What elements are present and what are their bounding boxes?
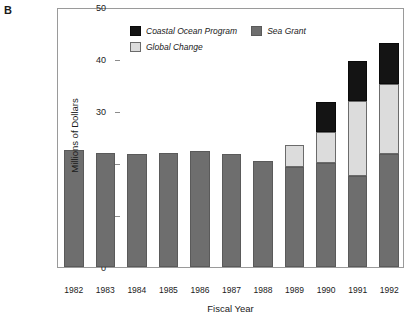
- x-tick-label-1983: 1983: [90, 285, 122, 295]
- bar-segment-sea-grant-1992: [379, 154, 399, 267]
- bar-segment-sea-grant-1983: [96, 153, 116, 267]
- x-tick-label-1992: 1992: [373, 285, 405, 295]
- x-tick-label-1984: 1984: [121, 285, 153, 295]
- legend-label-sea-grant: Sea Grant: [267, 26, 306, 36]
- bar-segment-global-change-1991: [348, 101, 368, 176]
- x-tick-label-1986: 1986: [184, 285, 216, 295]
- bar-1991: [348, 7, 368, 267]
- bar-segment-sea-grant-1989: [285, 167, 305, 267]
- x-tick-label-1989: 1989: [279, 285, 311, 295]
- x-tick-label-1987: 1987: [216, 285, 248, 295]
- bar-1983: [96, 7, 116, 267]
- x-tick-label-1982: 1982: [58, 285, 90, 295]
- bar-segment-coastal-1990: [316, 102, 336, 132]
- bar-segment-coastal-1991: [348, 61, 368, 101]
- legend-label-coastal-ocean-program: Coastal Ocean Program: [146, 26, 237, 36]
- y-tick-mark: [115, 216, 120, 217]
- legend-item-global-change: Global Change: [130, 42, 203, 52]
- y-tick-mark: [115, 164, 120, 165]
- bar-segment-global-change-1992: [379, 84, 399, 154]
- x-tick-label-1990: 1990: [310, 285, 342, 295]
- y-tick-mark: [115, 60, 120, 61]
- panel-letter: B: [4, 4, 12, 16]
- y-axis-title: Millions of Dollars: [69, 36, 80, 236]
- legend-swatch-icon-sea-grant: [251, 26, 262, 36]
- bar-segment-sea-grant-1985: [159, 153, 179, 267]
- legend-swatch-icon-global-change: [130, 42, 141, 52]
- bar-segment-global-change-1989: [285, 145, 305, 167]
- legend-row-1: Coastal Ocean Program Sea Grant: [130, 25, 320, 37]
- bar-segment-sea-grant-1988: [253, 161, 273, 267]
- bar-segment-sea-grant-1984: [127, 154, 147, 267]
- plot-area: 01020304050 1982198319841985198619871988…: [57, 8, 404, 268]
- bar-segment-sea-grant-1987: [222, 154, 242, 267]
- chart-legend: Coastal Ocean Program Sea Grant Global C…: [130, 25, 320, 57]
- legend-swatch-icon-coastal-ocean-program: [130, 26, 141, 36]
- bar-segment-coastal-1992: [379, 43, 399, 84]
- bar-1992: [379, 7, 399, 267]
- bar-segment-sea-grant-1986: [190, 151, 210, 267]
- bar-segment-global-change-1990: [316, 132, 336, 163]
- x-tick-label-1985: 1985: [153, 285, 185, 295]
- x-tick-label-1988: 1988: [247, 285, 279, 295]
- bar-segment-sea-grant-1990: [316, 163, 336, 267]
- x-axis-title: Fiscal Year: [58, 303, 403, 314]
- bar-segment-sea-grant-1991: [348, 176, 368, 267]
- legend-item-coastal-ocean-program: Coastal Ocean Program: [130, 26, 237, 36]
- legend-label-global-change: Global Change: [146, 42, 203, 52]
- legend-item-sea-grant: Sea Grant: [251, 26, 306, 36]
- legend-row-2: Global Change: [130, 41, 320, 53]
- x-tick-label-1991: 1991: [342, 285, 374, 295]
- y-tick-mark: [115, 112, 120, 113]
